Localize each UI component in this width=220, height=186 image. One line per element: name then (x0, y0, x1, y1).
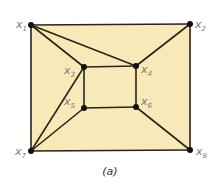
label-x1: x1 (15, 18, 27, 33)
node-x1 (28, 22, 34, 28)
node-x3 (81, 64, 87, 70)
node-x4 (133, 63, 139, 69)
node-x7 (28, 148, 34, 154)
edge-x1-x2 (31, 24, 190, 25)
edge-x6-x5 (84, 107, 136, 108)
label-x2: x2 (194, 18, 207, 33)
label-x8: x8 (195, 145, 208, 160)
label-x7: x7 (14, 145, 27, 160)
figure-caption: (a) (0, 165, 220, 178)
edge-x3-x4 (84, 66, 136, 67)
node-x8 (187, 147, 193, 153)
graph-diagram: x1 x2 x3 x4 x5 x6 x7 x8 (0, 0, 220, 186)
edge-x8-x7 (31, 150, 190, 151)
node-x2 (187, 21, 193, 27)
node-x6 (133, 104, 139, 110)
node-x5 (81, 105, 87, 111)
